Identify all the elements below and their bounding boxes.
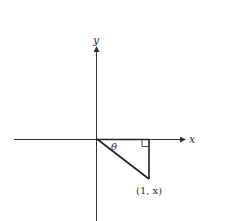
right-angle-marker	[142, 140, 149, 147]
triangle-hypotenuse	[97, 139, 149, 179]
point-label: (1, x)	[136, 185, 162, 196]
angle-theta-label: θ	[111, 141, 117, 152]
diagram-canvas: y x θ (1, x)	[0, 0, 231, 221]
y-axis-label: y	[92, 34, 100, 47]
x-axis-label: x	[189, 133, 196, 146]
